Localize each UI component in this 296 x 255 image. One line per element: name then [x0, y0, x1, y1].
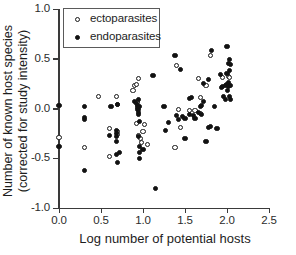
y-tick-mark	[53, 9, 58, 11]
data-point-endoparasites	[227, 68, 232, 73]
data-point-ectoparasites	[136, 76, 141, 81]
x-tick-label: 0.0	[39, 214, 79, 226]
data-point-ectoparasites	[130, 88, 135, 93]
data-point-ectoparasites	[107, 126, 112, 131]
y-tick-mark	[53, 108, 58, 110]
y-tick-label: 1.0	[16, 2, 50, 14]
x-tick-label: 2.5	[249, 214, 289, 226]
data-point-endoparasites	[206, 77, 211, 82]
filled-circle-icon	[75, 35, 80, 40]
y-tick-mark	[53, 58, 58, 60]
data-point-endoparasites	[192, 116, 197, 121]
legend-label-endoparasites: endoparasites	[90, 30, 161, 42]
legend-label-ectoparasites: ectoparasites	[90, 12, 157, 24]
data-point-ectoparasites	[82, 145, 87, 150]
x-tick-mark	[59, 208, 61, 213]
data-point-endoparasites	[115, 160, 120, 165]
legend-item-endoparasites: endoparasites	[64, 29, 159, 47]
y-tick-label: 0.0	[16, 102, 50, 114]
data-point-endoparasites	[137, 104, 142, 109]
data-point-endoparasites	[136, 112, 141, 117]
x-tick-mark	[227, 208, 229, 213]
data-point-ectoparasites	[145, 142, 150, 147]
x-tick-mark	[143, 208, 145, 213]
data-point-endoparasites	[189, 95, 194, 100]
data-point-endoparasites	[208, 124, 213, 129]
data-point-endoparasites	[166, 120, 171, 125]
y-tick-label: -0.5	[16, 151, 50, 163]
x-tick-mark	[101, 208, 103, 213]
data-point-endoparasites	[212, 104, 217, 109]
data-point-ectoparasites	[178, 125, 183, 130]
data-point-endoparasites	[153, 186, 158, 191]
y-tick-mark	[53, 158, 58, 160]
data-point-ectoparasites	[140, 129, 145, 134]
data-point-ectoparasites	[96, 94, 101, 99]
data-point-endoparasites	[228, 97, 233, 102]
data-point-endoparasites	[56, 103, 61, 108]
data-point-ectoparasites	[56, 135, 61, 140]
data-point-endoparasites	[209, 48, 214, 53]
x-tick-label: 0.5	[81, 214, 121, 226]
data-point-endoparasites	[182, 116, 187, 121]
data-point-endoparasites	[228, 62, 233, 67]
data-point-endoparasites	[182, 136, 187, 141]
scatter-plot-figure: Number of known host species (corrected …	[0, 0, 296, 255]
data-point-endoparasites	[82, 104, 87, 109]
data-point-endoparasites	[136, 97, 141, 102]
y-tick-mark	[53, 208, 58, 210]
data-point-endoparasites	[178, 67, 183, 72]
data-point-endoparasites	[56, 144, 61, 149]
data-point-endoparasites	[199, 112, 204, 117]
data-point-ectoparasites	[107, 154, 112, 159]
data-point-endoparasites	[214, 126, 219, 131]
x-tick-mark	[185, 208, 187, 213]
data-point-ectoparasites	[142, 122, 147, 127]
data-point-ectoparasites	[134, 82, 139, 87]
open-circle-icon	[75, 17, 80, 22]
data-point-endoparasites	[114, 139, 119, 144]
y-tick-label: -1.0	[16, 201, 50, 213]
data-point-ectoparasites	[172, 145, 177, 150]
data-point-endoparasites	[161, 104, 166, 109]
data-point-endoparasites	[82, 168, 87, 173]
data-point-endoparasites	[172, 53, 177, 58]
y-tick-label: 0.5	[16, 52, 50, 64]
legend-item-ectoparasites: ectoparasites	[64, 11, 159, 29]
legend: ectoparasites endoparasites	[63, 8, 160, 48]
data-point-endoparasites	[82, 117, 87, 122]
data-point-endoparasites	[150, 73, 155, 78]
data-point-ectoparasites	[196, 76, 201, 81]
y-axis-title-line1: Number of known host species	[1, 11, 16, 211]
data-point-endoparasites	[117, 150, 122, 155]
x-tick-mark	[269, 208, 271, 213]
data-point-endoparasites	[228, 83, 233, 88]
x-tick-label: 1.5	[165, 214, 205, 226]
data-point-endoparasites	[140, 147, 145, 152]
data-point-endoparasites	[115, 102, 120, 107]
data-point-endoparasites	[203, 139, 208, 144]
data-point-endoparasites	[107, 133, 112, 138]
data-point-ectoparasites	[176, 107, 181, 112]
x-tick-label: 1.0	[123, 214, 163, 226]
data-point-endoparasites	[163, 128, 168, 133]
data-point-ectoparasites	[114, 94, 119, 99]
x-tick-label: 2.0	[207, 214, 247, 226]
data-point-endoparasites	[108, 104, 113, 109]
data-point-endoparasites	[224, 44, 229, 49]
data-point-endoparasites	[201, 99, 206, 104]
data-point-ectoparasites	[208, 53, 213, 58]
data-point-endoparasites	[137, 156, 142, 161]
x-axis-title: Log number of potential hosts	[40, 231, 290, 246]
